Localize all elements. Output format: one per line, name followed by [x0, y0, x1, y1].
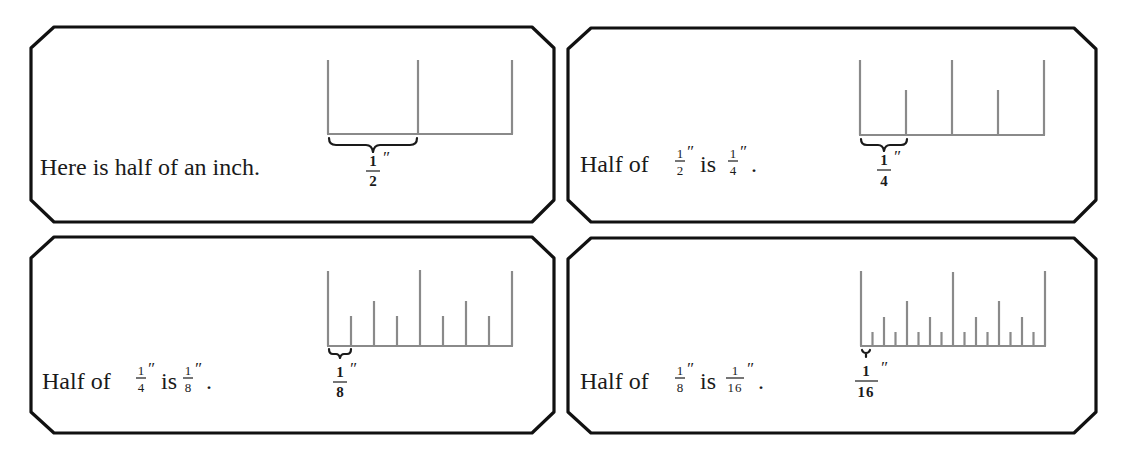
svg-text:″: ″ [349, 359, 357, 378]
svg-text:is: is [700, 368, 716, 394]
sentence: Here is half of an inch. [40, 154, 260, 180]
panel-half-inch: 1 2 ″ Here is half of an inch. [31, 27, 554, 222]
measure-label: 1 16 ″ [855, 358, 888, 400]
svg-text:1: 1 [369, 153, 377, 169]
sentence: Half of 1 8 ″ is 1 16 ″ . [580, 359, 764, 395]
sentence: Half of 1 4 ″ is 1 8 ″ . [42, 359, 212, 395]
svg-text:″: ″ [147, 359, 155, 378]
brace-icon [329, 349, 351, 358]
brace-icon [862, 350, 870, 357]
brace-icon [861, 139, 907, 151]
svg-text:1: 1 [336, 364, 344, 380]
ruler-halves [327, 60, 513, 134]
svg-text:Half of: Half of [580, 368, 649, 394]
svg-text:16: 16 [728, 380, 743, 395]
panel-frame [31, 27, 554, 222]
ruler-sixteenths [860, 271, 1046, 346]
svg-text:″: ″ [382, 148, 390, 167]
svg-text:Half of: Half of [42, 368, 111, 394]
svg-text:is: is [700, 151, 716, 177]
svg-text:1: 1 [677, 363, 684, 378]
svg-text:.: . [758, 368, 764, 394]
svg-text:8: 8 [336, 384, 344, 400]
svg-text:4: 4 [138, 380, 145, 395]
sentence: Half of 1 2 ″ is 1 4 ″ . [580, 142, 757, 178]
svg-text:.: . [206, 368, 212, 394]
svg-text:″: ″ [880, 358, 888, 377]
svg-text:1: 1 [138, 363, 145, 378]
svg-text:8: 8 [677, 380, 684, 395]
svg-text:16: 16 [858, 384, 875, 400]
svg-text:1: 1 [677, 146, 684, 161]
svg-text:is: is [161, 368, 177, 394]
svg-text:2: 2 [677, 163, 684, 178]
panel-frame [31, 237, 554, 433]
svg-text:Half of: Half of [580, 151, 649, 177]
svg-text:4: 4 [880, 173, 888, 189]
svg-text:1: 1 [732, 363, 739, 378]
svg-text:1: 1 [862, 363, 870, 379]
brace-icon [329, 138, 417, 152]
panel-eighth-inch: 1 8 ″ Half of 1 4 ″ is 1 8 ″ . [31, 237, 554, 433]
panel-quarter-inch: 1 4 ″ Half of 1 2 ″ is 1 4 ″ . [568, 28, 1096, 222]
svg-text:.: . [751, 151, 757, 177]
svg-text:1: 1 [880, 152, 888, 168]
svg-text:″: ″ [746, 359, 754, 378]
panel-sixteenth-inch: 1 16 ″ Half of 1 8 ″ is 1 16 ″ . [568, 238, 1096, 433]
svg-text:″: ″ [686, 359, 694, 378]
panel-frame [568, 28, 1096, 222]
svg-text:″: ″ [194, 359, 202, 378]
panel-frame [568, 238, 1096, 433]
measure-label: 1 8 ″ [333, 359, 357, 400]
svg-text:4: 4 [730, 163, 737, 178]
svg-text:2: 2 [369, 173, 377, 189]
svg-text:″: ″ [893, 147, 901, 166]
measure-label: 1 4 ″ [877, 147, 901, 189]
svg-text:1: 1 [730, 146, 737, 161]
svg-text:8: 8 [185, 380, 192, 395]
svg-text:″: ″ [686, 142, 694, 161]
ruler-quarters [859, 60, 1045, 135]
fractions-diagram: 1 2 ″ Here is half of an inch. 1 4 ″ Hal… [0, 0, 1125, 455]
svg-text:″: ″ [739, 142, 747, 161]
ruler-eighths [327, 270, 513, 346]
measure-label: 1 2 ″ [366, 148, 390, 189]
svg-text:1: 1 [185, 363, 192, 378]
